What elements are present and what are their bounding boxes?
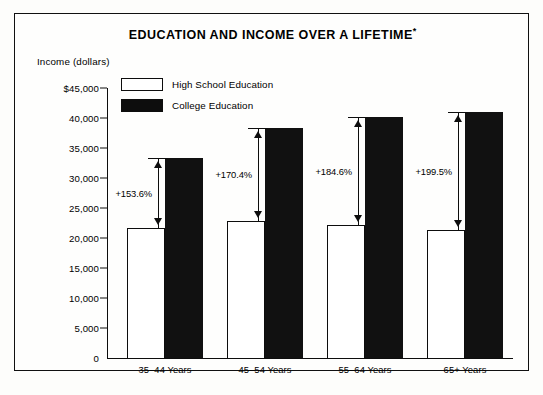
annotation-arrowhead-up-icon	[454, 115, 462, 122]
y-tick-label: 35,000	[23, 143, 99, 154]
y-tick-label: 15,000	[23, 263, 99, 274]
annotation-arrowhead-up-icon	[354, 120, 362, 127]
bar-college	[465, 112, 503, 358]
y-tick-mark	[100, 148, 107, 149]
y-tick-label: 25,000	[23, 203, 99, 214]
chart-legend: High School Education College Education	[121, 77, 273, 119]
y-tick-label: $45,000	[23, 83, 99, 94]
legend-swatch-college-icon	[121, 99, 163, 112]
legend-swatch-high-school-icon	[121, 78, 163, 91]
legend-item-high-school: High School Education	[121, 77, 273, 92]
x-category-label: 65+ Years	[444, 364, 487, 375]
bar-high-school	[227, 221, 265, 358]
plot-area: $45,00040,00035,00030,00025,00020,00015,…	[15, 14, 530, 372]
y-tick-label: 20,000	[23, 233, 99, 244]
legend-item-college: College Education	[121, 98, 273, 113]
bar-high-school	[127, 228, 165, 358]
y-tick-label: 30,000	[23, 173, 99, 184]
chart-page: EDUCATION AND INCOME OVER A LIFETIME* In…	[0, 0, 543, 395]
annotation-arrowhead-down-icon	[254, 211, 262, 218]
x-category-label: 35–44 Years	[138, 364, 191, 375]
x-category-label: 45–54 Years	[238, 364, 291, 375]
chart-frame: EDUCATION AND INCOME OVER A LIFETIME* In…	[14, 13, 529, 371]
annotation-arrowhead-down-icon	[154, 218, 162, 225]
y-tick-mark	[100, 118, 107, 119]
bar-high-school	[327, 225, 365, 358]
y-tick-label: 5,000	[23, 323, 99, 334]
y-tick-label: 40,000	[23, 113, 99, 124]
bar-high-school	[427, 230, 465, 358]
y-axis-line	[107, 88, 108, 358]
y-tick-mark	[100, 328, 107, 329]
annotation-arrowhead-up-icon	[154, 161, 162, 168]
y-tick-mark	[100, 208, 107, 209]
annotation-percent-label: +170.4%	[215, 169, 252, 180]
bar-college	[165, 158, 203, 358]
annotation-arrowhead-up-icon	[254, 131, 262, 138]
x-category-label: 55–64 Years	[338, 364, 391, 375]
y-tick-mark	[100, 178, 107, 179]
annotation-arrow-shaft	[458, 112, 459, 230]
y-tick-label: 0	[23, 353, 99, 364]
annotation-percent-label: +184.6%	[315, 166, 352, 177]
legend-label-college: College Education	[172, 100, 253, 111]
y-tick-mark	[100, 88, 107, 89]
annotation-arrow-shaft	[358, 117, 359, 226]
y-tick-mark	[100, 298, 107, 299]
x-axis-line	[107, 358, 513, 359]
y-tick-mark	[100, 268, 107, 269]
annotation-percent-label: +199.5%	[415, 165, 452, 176]
legend-label-high-school: High School Education	[172, 79, 273, 90]
bar-college	[265, 128, 303, 358]
annotation-arrowhead-down-icon	[454, 220, 462, 227]
y-tick-mark	[100, 238, 107, 239]
bar-college	[365, 117, 403, 358]
annotation-percent-label: +153.6%	[115, 187, 152, 198]
annotation-arrowhead-down-icon	[354, 215, 362, 222]
annotation-arrow-shaft	[258, 128, 259, 222]
y-tick-label: 10,000	[23, 293, 99, 304]
